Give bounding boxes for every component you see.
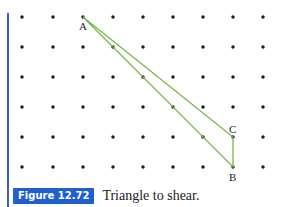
grid-dot (111, 165, 114, 168)
grid-dot (171, 75, 174, 78)
grid-dot (261, 45, 264, 48)
grid-dot (261, 75, 264, 78)
grid-dot (201, 15, 204, 18)
grid-dot (141, 15, 144, 18)
grid-dot (141, 105, 144, 108)
grid-dots (20, 15, 264, 168)
grid-dot (141, 135, 144, 138)
grid-dot (231, 15, 234, 18)
grid-dot (201, 75, 204, 78)
grid-dot (20, 165, 23, 168)
dot-grid-diagram: A B C (0, 0, 283, 185)
grid-dot (111, 75, 114, 78)
grid-dot (81, 135, 84, 138)
grid-dot (231, 45, 234, 48)
point-label-c: C (229, 123, 236, 135)
grid-dot (201, 105, 204, 108)
grid-dot (81, 45, 84, 48)
grid-dot (20, 135, 23, 138)
grid-dot (20, 15, 23, 18)
grid-dot (51, 165, 54, 168)
grid-dot (171, 135, 174, 138)
grid-dot (201, 165, 204, 168)
grid-dot (261, 165, 264, 168)
grid-dot (111, 105, 114, 108)
grid-dot (20, 105, 23, 108)
grid-dot (51, 135, 54, 138)
grid-dot (81, 75, 84, 78)
grid-dot (111, 15, 114, 18)
grid-dot (261, 135, 264, 138)
grid-dot (231, 75, 234, 78)
grid-dot (51, 75, 54, 78)
grid-dot (141, 45, 144, 48)
grid-dot (20, 75, 23, 78)
grid-dot (141, 165, 144, 168)
grid-dot (111, 135, 114, 138)
figure-caption-text: Triangle to shear. (102, 188, 199, 204)
grid-dot (171, 15, 174, 18)
grid-dot (201, 45, 204, 48)
grid-dot (20, 45, 23, 48)
point-label-a: A (79, 20, 87, 32)
grid-dot (81, 165, 84, 168)
grid-dot (231, 105, 234, 108)
grid-dot (51, 15, 54, 18)
grid-dot (51, 105, 54, 108)
figure-caption: Figure 12.72 Triangle to shear. (13, 188, 199, 204)
triangle-abc (83, 17, 233, 167)
grid-dot (261, 105, 264, 108)
point-label-b: B (229, 171, 236, 183)
grid-dot (171, 165, 174, 168)
grid-dot (81, 105, 84, 108)
grid-dot (171, 45, 174, 48)
grid-dot (261, 15, 264, 18)
figure-number-badge: Figure 12.72 (13, 188, 94, 204)
grid-dot (51, 45, 54, 48)
